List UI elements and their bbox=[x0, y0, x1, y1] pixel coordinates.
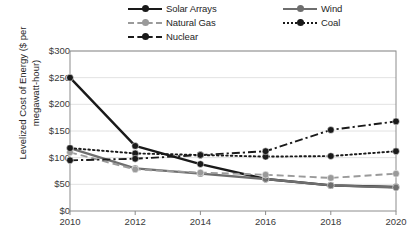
data-point bbox=[132, 155, 139, 162]
data-point bbox=[327, 182, 334, 189]
data-point bbox=[327, 153, 334, 160]
data-point bbox=[132, 143, 139, 150]
data-point bbox=[67, 74, 74, 81]
x-tick-label: 2016 bbox=[255, 216, 276, 228]
data-point bbox=[67, 157, 74, 164]
x-axis-ticks bbox=[70, 211, 396, 215]
data-point bbox=[262, 148, 269, 155]
data-point bbox=[393, 118, 400, 125]
x-tick-label: 2012 bbox=[125, 216, 146, 228]
x-tick-label: 2020 bbox=[385, 216, 406, 228]
data-point bbox=[262, 171, 269, 178]
x-tick-label: 2014 bbox=[190, 216, 211, 228]
data-point bbox=[393, 170, 400, 177]
data-point bbox=[393, 148, 400, 155]
plot-area bbox=[0, 0, 408, 249]
series-line bbox=[70, 78, 396, 187]
data-point bbox=[67, 145, 74, 152]
x-tick-label: 2018 bbox=[320, 216, 341, 228]
levelized-cost-of-energy-chart: Solar Arrays Natural Gas Nuclear Wind bbox=[0, 0, 408, 249]
x-axis-tick-labels: 201020122014201620182020 bbox=[70, 216, 408, 234]
data-point bbox=[197, 161, 204, 168]
data-point bbox=[393, 184, 400, 191]
x-tick-label: 2010 bbox=[59, 216, 80, 228]
data-point bbox=[327, 175, 334, 182]
data-point bbox=[327, 127, 334, 134]
data-point bbox=[132, 166, 139, 173]
data-point bbox=[197, 169, 204, 176]
data-point bbox=[197, 152, 204, 159]
